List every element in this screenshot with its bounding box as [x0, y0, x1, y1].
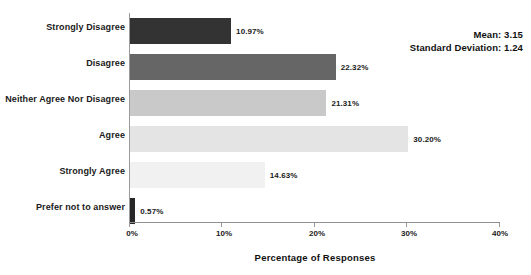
bar-value-prefer-not-to-answer: 0.57%: [140, 207, 163, 216]
bar-agree: [130, 126, 408, 152]
x-axis-title: Percentage of Responses: [130, 252, 500, 263]
bar-strongly-agree: [130, 162, 265, 188]
category-label-strongly-disagree: Strongly Disagree: [0, 22, 125, 32]
x-axis-tick-label-20: 20%: [309, 229, 325, 238]
bar-strongly-disagree: [130, 18, 231, 44]
category-label-agree: Agree: [0, 130, 125, 140]
bar-disagree: [130, 54, 336, 80]
x-axis-tick-label-30: 30%: [401, 229, 417, 238]
bar-prefer-not-to-answer: [130, 198, 135, 224]
bar-neither-agree-nor-disagree: [130, 90, 326, 116]
x-axis-tick-label-0: 0%: [126, 229, 138, 238]
y-axis-line: [129, 13, 130, 223]
bar-value-disagree: 22.32%: [341, 63, 369, 72]
x-axis-tick: [221, 223, 222, 227]
bar-value-agree: 30.20%: [413, 135, 441, 144]
bar-value-neither-agree-nor-disagree: 21.31%: [331, 99, 359, 108]
x-axis-tick: [129, 223, 130, 227]
statistics-annotation: Mean: 3.15 Standard Deviation: 1.24: [410, 28, 523, 54]
x-axis-tick: [314, 223, 315, 227]
bar-chart: Strongly Disagree Disagree Neither Agree…: [0, 0, 531, 275]
x-axis-tick-label-40: 40%: [492, 229, 508, 238]
category-label-prefer-not-to-answer: Prefer not to answer: [0, 202, 125, 212]
bar-value-strongly-agree: 14.63%: [270, 171, 298, 180]
category-label-neither-agree-nor-disagree: Neither Agree Nor Disagree: [0, 94, 125, 104]
category-label-disagree: Disagree: [0, 58, 125, 68]
x-axis-tick-label-10: 10%: [216, 229, 232, 238]
standard-deviation-text: Standard Deviation: 1.24: [410, 41, 523, 54]
x-axis-tick: [406, 223, 407, 227]
mean-text: Mean: 3.15: [410, 28, 523, 41]
bar-value-strongly-disagree: 10.97%: [236, 27, 264, 36]
x-axis-tick: [499, 223, 500, 227]
category-label-strongly-agree: Strongly Agree: [0, 166, 125, 176]
